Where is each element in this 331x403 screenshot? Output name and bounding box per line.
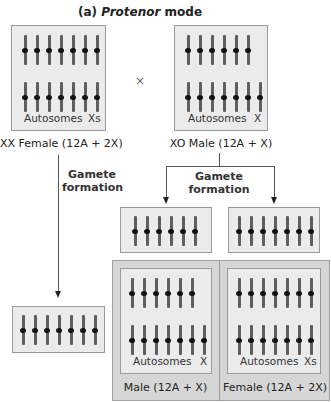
- centromere-dot: [144, 229, 150, 234]
- centromere-dot: [197, 48, 203, 53]
- chromosome: [305, 325, 317, 355]
- arrow-down-icon: [163, 197, 169, 204]
- centromere-dot: [58, 48, 64, 53]
- centromere-dot: [153, 338, 159, 343]
- chromosome: [55, 82, 67, 112]
- chromosome: [31, 82, 43, 112]
- offspring-female-caption: Female (12A + 2X): [220, 381, 330, 394]
- centromere-dot: [58, 95, 64, 100]
- chromosome: [79, 82, 91, 112]
- centromere-dot: [245, 48, 251, 53]
- chromosome: [230, 82, 242, 112]
- centromere-dot: [257, 95, 263, 100]
- chromosome: [138, 278, 150, 308]
- chromosome: [55, 35, 67, 65]
- centromere-dot: [260, 291, 266, 296]
- chromosome: [150, 325, 162, 355]
- chromosome: [305, 216, 317, 246]
- chromosome-row: [17, 315, 101, 345]
- chromosome: [126, 325, 138, 355]
- centromere-dot: [245, 95, 251, 100]
- centromere-dot: [94, 95, 100, 100]
- centromere-dot: [180, 229, 186, 234]
- chromosome: [269, 216, 281, 246]
- centromere-dot: [233, 48, 239, 53]
- centromere-dot: [32, 328, 38, 333]
- chromosome: [242, 82, 254, 112]
- centromere-dot: [22, 95, 28, 100]
- chromosome: [206, 82, 218, 112]
- centromere-dot: [185, 95, 191, 100]
- chromosome: [162, 325, 174, 355]
- chromosome: [138, 325, 150, 355]
- male-gamete-arrow-bar: [166, 166, 274, 167]
- centromere-dot: [260, 338, 266, 343]
- chromosome: [19, 82, 31, 112]
- autosomes-label: Autosomes: [24, 112, 82, 124]
- chromosome: [233, 216, 245, 246]
- centromere-dot: [20, 328, 26, 333]
- gamete-label-line1: Gamete: [62, 168, 122, 181]
- male-gamete-formation-label: Gamete formation: [186, 170, 252, 196]
- sex-chromosome-label: X: [200, 355, 207, 367]
- parent-female-karyotype: Autosomes Xs: [11, 25, 106, 131]
- chromosome: [67, 82, 79, 112]
- chromosome: [293, 278, 305, 308]
- centromere-dot: [82, 48, 88, 53]
- chromosome: [293, 325, 305, 355]
- centromere-dot: [197, 95, 203, 100]
- chromosome: [126, 278, 138, 308]
- centromere-dot: [308, 229, 314, 234]
- centromere-dot: [189, 291, 195, 296]
- chromosome: [293, 216, 305, 246]
- centromere-dot: [308, 291, 314, 296]
- sex-chromosome-label: X: [254, 112, 261, 124]
- chromosome: [194, 35, 206, 65]
- centromere-dot: [156, 229, 162, 234]
- autosomes-label: Autosomes: [188, 112, 246, 124]
- male-gamete-arrow-right: [274, 166, 275, 198]
- chromosome-row-bottom: [19, 82, 103, 112]
- chromosome: [206, 35, 218, 65]
- offspring-divider: [219, 260, 220, 401]
- chromosome: [141, 216, 153, 246]
- chromosome-row-top: [182, 35, 254, 65]
- centromere-dot: [308, 338, 314, 343]
- centromere-dot: [177, 338, 183, 343]
- gamete-label-line2: formation: [186, 183, 252, 196]
- chromosome: [257, 325, 269, 355]
- cross-symbol: ×: [135, 74, 145, 88]
- centromere-dot: [284, 229, 290, 234]
- gamete-label-line2: formation: [62, 181, 122, 194]
- centromere-dot: [209, 48, 215, 53]
- centromere-dot: [201, 338, 207, 343]
- arrow-down-icon: [271, 197, 277, 204]
- chromosome: [77, 315, 89, 345]
- chromosome: [43, 82, 55, 112]
- chromosome: [19, 35, 31, 65]
- chromosome: [186, 278, 198, 308]
- chromosome: [194, 82, 206, 112]
- centromere-dot: [236, 291, 242, 296]
- centromere-dot: [272, 291, 278, 296]
- chromosome: [165, 216, 177, 246]
- centromere-dot: [82, 95, 88, 100]
- chromosome: [67, 35, 79, 65]
- centromere-dot: [248, 338, 254, 343]
- chromosome: [182, 82, 194, 112]
- centromere-dot: [34, 48, 40, 53]
- chromosome: [233, 325, 245, 355]
- centromere-dot: [129, 291, 135, 296]
- chromosome: [162, 278, 174, 308]
- female-gamete-formation-label: Gamete formation: [62, 168, 122, 194]
- title-prefix: (a): [78, 5, 101, 19]
- centromere-dot: [141, 291, 147, 296]
- chromosome: [218, 35, 230, 65]
- centromere-dot: [272, 338, 278, 343]
- gamete-label-line1: Gamete: [186, 170, 252, 183]
- male-gamete-a: [120, 207, 212, 253]
- centromere-dot: [296, 338, 302, 343]
- centromere-dot: [70, 95, 76, 100]
- centromere-dot: [141, 338, 147, 343]
- centromere-dot: [46, 95, 52, 100]
